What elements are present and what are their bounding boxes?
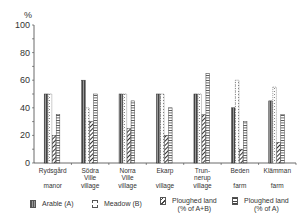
y-tick-label: 80 — [20, 48, 30, 58]
y-tick-label: 0 — [25, 158, 30, 168]
bars — [44, 73, 284, 163]
category-label: Beden — [230, 167, 249, 174]
bar-ploughed-land-of-a — [206, 73, 210, 163]
bar-ploughed-land-of-a-b — [127, 129, 131, 164]
y-tick-label: 40 — [20, 103, 30, 113]
category-label: Rydsgård — [39, 167, 67, 175]
y-unit-label: % — [24, 10, 32, 20]
category-label: Ekarp — [157, 167, 174, 175]
legend-item-arable: Arable (A) — [30, 200, 74, 208]
category-label: village — [193, 182, 212, 190]
category-label: farm — [233, 182, 246, 189]
bar-meadow-b — [198, 94, 202, 163]
category-label: farm — [271, 182, 284, 189]
bar-ploughed-land-of-a-b — [277, 142, 281, 163]
meadow-swatch-icon — [92, 200, 98, 208]
bar-meadow-b — [123, 94, 127, 163]
bar-meadow-b — [273, 87, 277, 163]
bar-meadow-b — [48, 94, 52, 163]
bar-arable-a — [44, 94, 48, 163]
category-labels: RydsgårdmanorSödraVillevillageNorraVille… — [39, 167, 292, 190]
bar-ploughed-land-of-a-b — [165, 135, 169, 163]
arable-swatch-icon — [30, 200, 36, 208]
category-label: village — [118, 182, 137, 190]
bar-arable-a — [119, 94, 123, 163]
bar-ploughed-land-of-a — [243, 122, 247, 163]
bar-arable-a — [194, 94, 198, 163]
bar-arable-a — [269, 101, 273, 163]
bar-ploughed-land-of-a-b — [90, 122, 94, 163]
bar-ploughed-land-of-a — [56, 115, 60, 163]
bar-ploughed-land-of-a-b — [52, 135, 56, 163]
bar-ploughed-land-of-a — [94, 94, 98, 163]
ploughed-ab-swatch-icon — [160, 197, 166, 205]
y-tick-label: 60 — [20, 75, 30, 85]
category-label: Ville — [121, 174, 134, 181]
bar-meadow-b — [235, 80, 239, 163]
bar-chart: 020406080100% RydsgårdmanorSödraVillevil… — [0, 0, 304, 216]
category-label: village — [81, 182, 100, 190]
bar-ploughed-land-of-a-b — [202, 115, 206, 163]
category-label: village — [156, 182, 175, 190]
category-label: manor — [43, 182, 62, 189]
legend: Arable (A) Meadow (B) Ploughed land (% o… — [0, 196, 304, 216]
legend-label: Arable (A) — [42, 200, 74, 208]
bar-ploughed-land-of-a — [281, 115, 285, 163]
legend-item-meadow: Meadow (B) — [92, 200, 142, 208]
category-label: Ville — [84, 174, 97, 181]
bar-ploughed-land-of-a-b — [239, 149, 243, 163]
legend-label: Meadow (B) — [104, 200, 142, 208]
y-tick-label: 20 — [20, 130, 30, 140]
bar-ploughed-land-of-a — [131, 101, 135, 163]
legend-label: Ploughed land (% of A+B) — [172, 197, 217, 213]
bar-meadow-b — [161, 94, 165, 163]
legend-item-ploughed-ab: Ploughed land (% of A+B) — [160, 197, 217, 213]
legend-item-ploughed-a: Ploughed land (% of A) — [232, 197, 289, 213]
category-label: nerup — [194, 174, 211, 182]
category-label: Klämman — [264, 167, 292, 174]
ploughed-a-swatch-icon — [232, 197, 238, 205]
bar-meadow-b — [86, 108, 90, 163]
bar-ploughed-land-of-a — [169, 108, 173, 163]
bar-arable-a — [231, 108, 235, 163]
bar-arable-a — [157, 94, 161, 163]
y-tick-label: 100 — [15, 20, 30, 30]
bar-arable-a — [82, 80, 86, 163]
legend-label: Ploughed land (% of A) — [244, 197, 289, 213]
